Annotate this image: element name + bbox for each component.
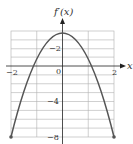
derivative-graph: f′(x) x −2 0 2 −2 −4 −8 [0,0,133,144]
axes [6,22,122,144]
y-axis-arrow-icon [60,18,65,24]
endpoint-right [112,135,116,139]
x-axis-label: x [127,60,133,71]
tick-x-0: 0 [56,67,61,76]
endpoint-left [9,135,13,139]
y-axis-label: f′(x) [53,6,74,17]
tick-y-neg4: −4 [47,97,59,106]
x-axis-arrow-icon [120,64,126,69]
tick-x-neg2: −2 [6,68,18,77]
tick-x-2: 2 [112,68,117,77]
tick-y-neg8: −8 [47,133,59,142]
tick-y-2: −2 [49,44,61,53]
